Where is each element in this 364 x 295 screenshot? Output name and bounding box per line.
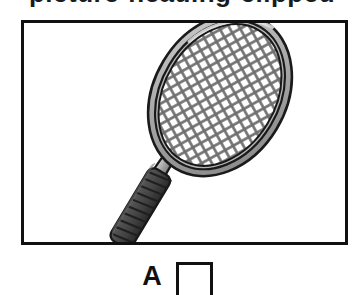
clipped-heading-text: picture-heading-clipped [0,0,364,8]
answer-row: A [138,259,228,295]
answer-option-letter: A [138,261,166,291]
answer-checkbox-a[interactable] [176,262,213,295]
tennis-racket-illustration [24,23,345,242]
picture-frame [21,20,348,245]
page-root: picture-heading-clipped [0,0,364,295]
